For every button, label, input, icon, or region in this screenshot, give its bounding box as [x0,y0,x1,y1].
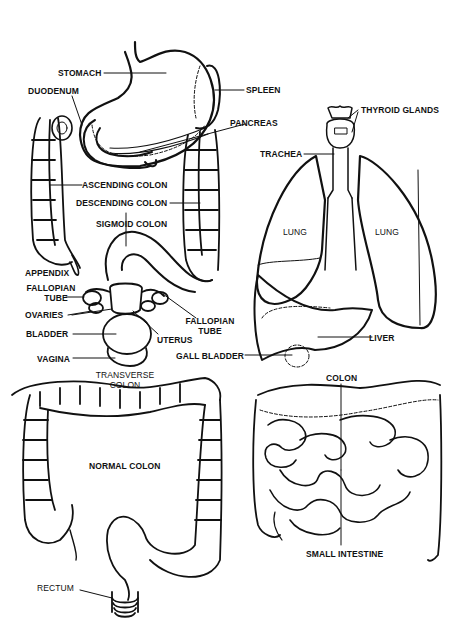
label-transverse-colon: TRANSVERSE COLON [92,370,158,390]
label-small-intestine: SMALL INTESTINE [306,549,383,559]
colon-frame-illustration [253,381,441,561]
label-lung-left: LUNG [283,227,307,237]
liver-illustration [255,275,372,367]
label-lung-right: LUNG [375,227,399,237]
label-gall-bladder: GALL BLADDER [176,351,244,361]
label-rectum: RECTUM [37,583,74,593]
label-bladder: BLADDER [26,329,68,339]
label-colon: COLON [326,373,357,383]
descending-colon-illustration [183,130,219,281]
label-transverse-colon-line1: TRANSVERSE [92,370,158,380]
label-ascending-colon: ASCENDING COLON [82,180,168,190]
small-intestine-illustration [265,416,428,540]
label-pancreas: PANCREAS [230,118,278,128]
label-uterus: UTERUS [157,335,193,345]
label-liver: LIVER [369,333,395,343]
label-duodenum: DUODENUM [28,86,79,96]
label-thyroid-glands: THYROID GLANDS [361,105,439,115]
rectum-illustration [112,592,138,617]
label-sigmoid-colon: SIGMOID COLON [96,219,167,229]
thyroid-illustration [327,106,355,148]
label-spleen: SPLEEN [246,85,281,95]
label-ovaries: OVARIES [25,310,63,320]
label-vagina: VAGINA [37,354,70,364]
duodenum-illustration [84,120,157,168]
label-fallopian-tube-left-line1: FALLOPIAN [26,283,76,293]
label-fallopian-tube-right: FALLOPIAN TUBE [184,316,236,336]
reproductive-organs-illustration [83,284,168,367]
label-appendix: APPENDIX [25,268,69,278]
trachea-illustration [325,148,356,270]
lungs-illustration [257,156,436,328]
label-normal-colon: NORMAL COLON [89,461,160,471]
label-descending-colon: DESCENDING COLON [76,198,167,208]
ascending-colon-illustration [31,116,80,268]
label-fallopian-tube-right-line1: FALLOPIAN [184,316,236,326]
label-transverse-colon-line2: COLON [92,380,158,390]
label-fallopian-tube-left: FALLOPIAN TUBE [26,283,76,303]
label-fallopian-tube-left-line2: TUBE [26,293,76,303]
normal-colon-illustration [12,378,222,600]
appendix-illustration [70,255,79,275]
spleen-illustration [194,66,220,129]
label-trachea: TRACHEA [260,149,302,159]
label-stomach: STOMACH [58,68,102,78]
